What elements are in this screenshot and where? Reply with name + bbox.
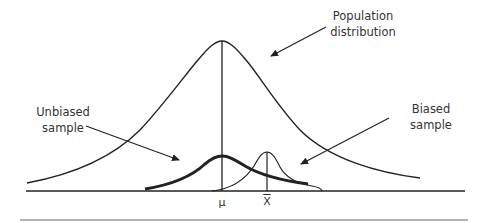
unbiased-label-line1: Unbiased [28, 104, 98, 120]
unbiased-label-line2: sample [28, 120, 98, 136]
biased-label: Biased sample [396, 101, 466, 133]
xbar-symbol: X [257, 195, 277, 208]
unbiased-arrow [86, 126, 179, 160]
population-label-line1: Population [318, 8, 408, 24]
mu-symbol: μ [212, 196, 232, 209]
biased-label-line1: Biased [396, 101, 466, 117]
population-label: Population distribution [318, 8, 408, 40]
unbiased-label: Unbiased sample [28, 104, 98, 136]
population-label-line2: distribution [318, 24, 408, 40]
biased-label-line2: sample [396, 117, 466, 133]
sampling-bias-diagram: Population distribution Unbiased sample … [0, 0, 488, 223]
biased-arrow [301, 118, 389, 164]
